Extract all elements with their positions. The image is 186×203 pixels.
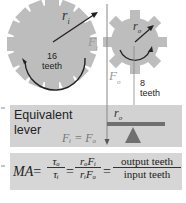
fulcrum [125,127,141,143]
lever-title-line1: Equivalent [14,108,72,123]
input-radius-label: ri [62,8,70,26]
lever-radius-label: ro [114,106,122,122]
fraction-torque: τₒ τᵢ [47,155,65,180]
formula-panel: MA= τₒ τᵢ = rₒFᵢ rᵢFₒ = output teeth inp… [10,153,182,190]
input-teeth-count: 16 [40,51,64,61]
fraction-teeth: output teeth input teeth [113,155,181,180]
output-teeth-label: teeth [140,88,170,98]
equals-sign-2: = [103,164,111,180]
input-teeth-label: teeth [38,61,66,71]
fraction-radius-force: rₒFᵢ rᵢFₒ [75,155,101,180]
lever-beam [107,122,165,126]
output-radius-label: ro [133,19,141,35]
output-teeth-count: 8 [140,78,156,88]
output-force-label: Fo [109,68,120,86]
equals-sign: = [66,164,74,180]
force-equation: Fᵢ = Fₒ [62,131,96,146]
input-force-label: Fi [88,34,98,52]
formula-lhs: MA= [13,164,41,180]
